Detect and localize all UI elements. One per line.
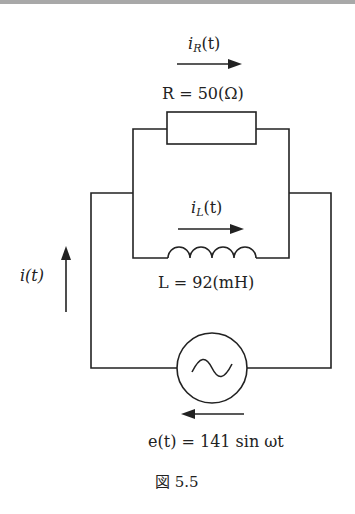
label-resistance: R = 50(Ω) (162, 86, 244, 102)
resistor (167, 112, 256, 144)
sine-wave-icon (192, 359, 232, 376)
label-iR: iR(t) (188, 36, 220, 54)
label-source-voltage: e(t) = 141 sin ωt (148, 434, 284, 450)
inductor (168, 247, 256, 258)
label-iL: iL(t) (191, 200, 222, 218)
label-inductance: L = 92(mH) (158, 275, 254, 291)
circuit-figure: iR(t) R = 50(Ω) iL(t) L = 92(mH) i(t) e(… (0, 0, 355, 514)
inner-loop-wire (133, 129, 168, 258)
label-source-current: i(t) (20, 268, 44, 284)
figure-caption: 図 5.5 (155, 475, 199, 490)
